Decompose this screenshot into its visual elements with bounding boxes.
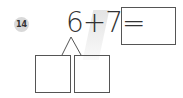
- split-box-right[interactable]: [74, 55, 110, 93]
- split-box-left[interactable]: [35, 55, 71, 93]
